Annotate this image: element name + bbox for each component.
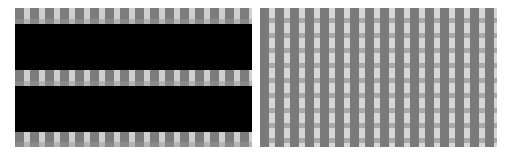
black-band-upper	[15, 24, 252, 70]
stripe-band-top	[15, 8, 252, 24]
stripe-band-middle	[15, 70, 252, 86]
stripe-band-bottom	[15, 132, 252, 147]
black-band-lower	[15, 86, 252, 132]
left-pattern-panel	[15, 8, 252, 147]
right-grid-pattern-panel	[260, 8, 497, 147]
